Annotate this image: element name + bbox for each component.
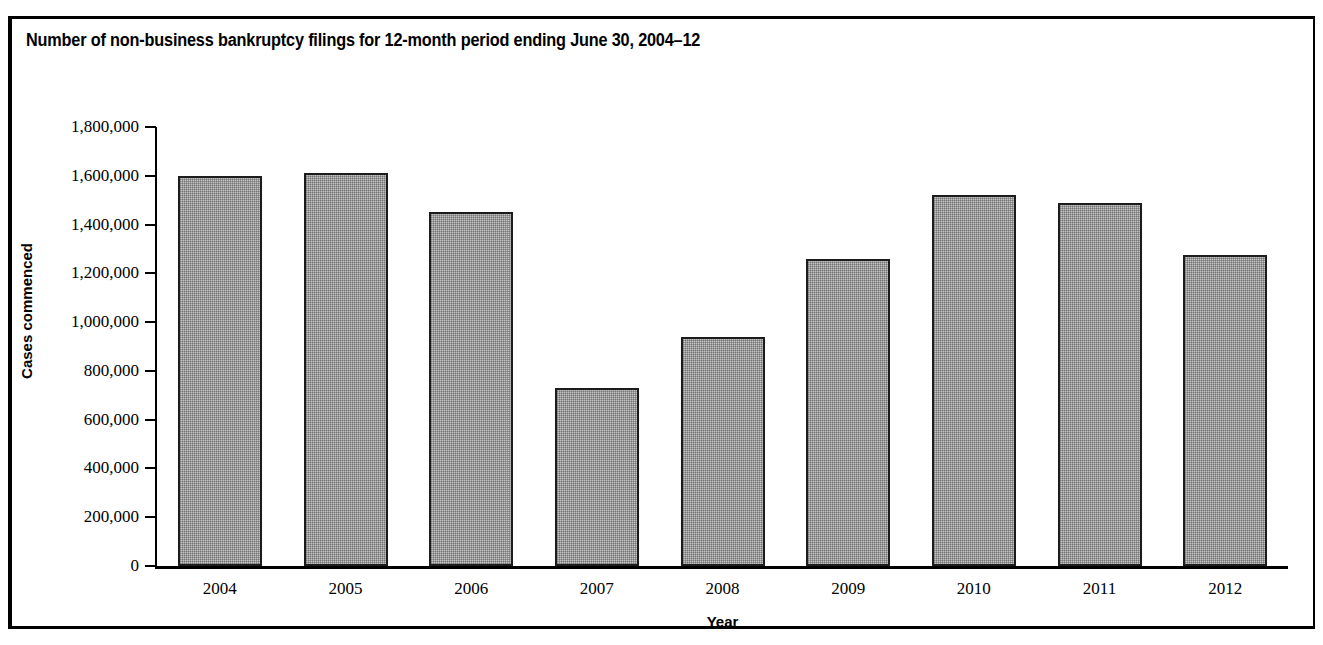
x-tick-label: 2011 bbox=[1037, 579, 1163, 599]
bar-2004 bbox=[178, 176, 262, 566]
y-tick-label: 800,000 bbox=[29, 361, 139, 381]
y-tick-mark bbox=[145, 370, 156, 372]
y-tick-label: 200,000 bbox=[29, 507, 139, 527]
figure-frame-right-rule bbox=[1313, 16, 1315, 629]
x-axis-title: Year bbox=[157, 613, 1288, 630]
y-tick-label: 400,000 bbox=[29, 458, 139, 478]
plot-area: 0200,000400,000600,000800,0001,000,0001,… bbox=[157, 127, 1288, 566]
y-tick-mark bbox=[145, 126, 156, 128]
x-tick-label: 2012 bbox=[1162, 579, 1288, 599]
bar-2011 bbox=[1058, 203, 1142, 566]
bar-2007 bbox=[555, 388, 639, 566]
y-tick-label: 1,200,000 bbox=[29, 263, 139, 283]
y-tick-mark bbox=[145, 467, 156, 469]
chart-title: Number of non-business bankruptcy filing… bbox=[26, 30, 700, 51]
y-tick-mark bbox=[145, 419, 156, 421]
figure-frame-top-rule bbox=[8, 16, 1315, 19]
figure-frame-left-rule bbox=[8, 16, 12, 629]
y-tick-label: 1,400,000 bbox=[29, 215, 139, 235]
x-tick-label: 2007 bbox=[534, 579, 660, 599]
y-tick-label: 600,000 bbox=[29, 410, 139, 430]
x-tick-label: 2010 bbox=[911, 579, 1037, 599]
y-tick-label: 1,000,000 bbox=[29, 312, 139, 332]
y-tick-mark bbox=[145, 516, 156, 518]
chart-figure: Number of non-business bankruptcy filing… bbox=[0, 0, 1323, 645]
y-tick-label: 0 bbox=[29, 556, 139, 576]
y-tick-mark bbox=[145, 175, 156, 177]
x-tick-label: 2006 bbox=[408, 579, 534, 599]
y-tick-label: 1,800,000 bbox=[29, 117, 139, 137]
y-tick-mark bbox=[145, 321, 156, 323]
x-tick-label: 2005 bbox=[283, 579, 409, 599]
x-tick-label: 2008 bbox=[660, 579, 786, 599]
x-tick-label: 2004 bbox=[157, 579, 283, 599]
bar-2010 bbox=[932, 195, 1016, 566]
x-axis-line bbox=[155, 566, 1288, 569]
y-tick-label: 1,600,000 bbox=[29, 166, 139, 186]
bar-2006 bbox=[429, 212, 513, 566]
bar-2005 bbox=[304, 173, 388, 566]
y-tick-mark bbox=[145, 565, 156, 567]
bar-2009 bbox=[806, 259, 890, 566]
bar-2008 bbox=[681, 337, 765, 566]
y-tick-mark bbox=[145, 224, 156, 226]
y-axis-line bbox=[155, 127, 157, 568]
bar-2012 bbox=[1183, 255, 1267, 566]
x-tick-label: 2009 bbox=[785, 579, 911, 599]
y-tick-mark bbox=[145, 272, 156, 274]
